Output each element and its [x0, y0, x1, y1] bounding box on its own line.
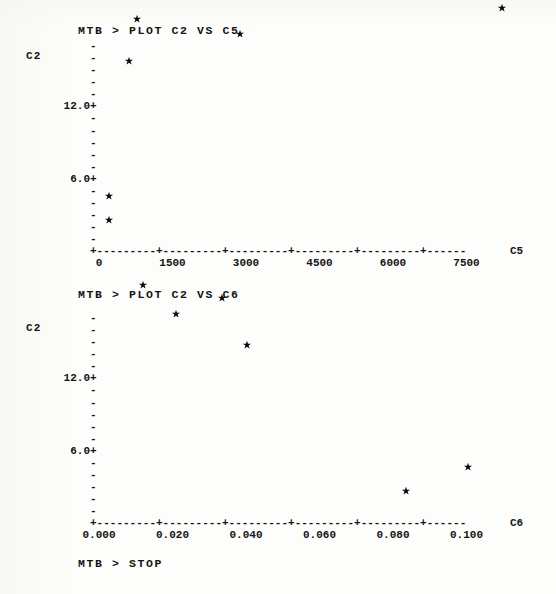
data-point-marker: [172, 310, 179, 317]
y-axis-tick-label: 6.0: [36, 173, 90, 185]
command-plot-c2-vs-c5: MTB > PLOT C2 VS C5: [78, 24, 240, 37]
x-axis-tick-label: 0.100: [450, 529, 483, 541]
y-axis-tick-minor: -: [90, 149, 97, 161]
y-axis-tick-minor: -: [90, 88, 97, 100]
minitab-output-page: MTB > PLOT C2 VS C5 -----+6.0-----+12.0-…: [0, 0, 556, 594]
x-axis-line: +---------+---------+---------+---------…: [90, 245, 466, 257]
y-axis-tick-minor: -: [90, 233, 97, 245]
x-axis-tick-label: 7500: [453, 257, 479, 269]
y-axis-tick-minor: -: [90, 40, 97, 52]
y-axis-title: C2: [26, 50, 42, 62]
x-axis-tick-label: 0.000: [82, 529, 115, 541]
y-axis-tick-minor: -: [90, 384, 97, 396]
y-axis-tick-minor: -: [90, 312, 97, 324]
x-axis-line: +---------+---------+---------+---------…: [90, 517, 466, 529]
data-point-marker: [243, 341, 250, 348]
y-axis-tick-minor: -: [90, 52, 97, 64]
data-point-marker: [497, 4, 504, 11]
y-axis-tick-minor: -: [90, 493, 97, 505]
y-axis-tick-label: 6.0: [36, 445, 90, 457]
y-axis-tick-major: +: [90, 100, 97, 112]
y-axis-title: C2: [26, 322, 42, 334]
data-point-marker: [132, 15, 139, 22]
y-axis-tick-minor: -: [90, 457, 97, 469]
x-axis-tick-label: 6000: [380, 257, 406, 269]
data-point-marker: [104, 192, 111, 199]
y-axis-tick-minor: -: [90, 481, 97, 493]
y-axis-tick-minor: -: [90, 324, 97, 336]
x-axis-tick-label: 0.040: [229, 529, 262, 541]
y-axis-tick-minor: -: [90, 197, 97, 209]
data-point-marker: [104, 216, 111, 223]
data-point-marker: [139, 281, 146, 288]
y-axis-tick-minor: -: [90, 433, 97, 445]
y-axis-tick-label: 12.0: [36, 372, 90, 384]
x-axis-tick-label: 0.080: [376, 529, 409, 541]
y-axis-tick-minor: -: [90, 421, 97, 433]
data-point-marker: [125, 57, 132, 64]
y-axis-tick-minor: -: [90, 125, 97, 137]
y-axis-tick-minor: -: [90, 469, 97, 481]
y-axis-tick-minor: -: [90, 505, 97, 517]
x-axis-tick-label: 1500: [159, 257, 185, 269]
y-axis-tick-major: +: [90, 173, 97, 185]
y-axis-tick-minor: -: [90, 360, 97, 372]
x-axis-tick-label: 0.020: [156, 529, 189, 541]
command-plot-c2-vs-c6: MTB > PLOT C2 VS C6: [78, 288, 240, 301]
y-axis-tick-minor: -: [90, 161, 97, 173]
y-axis-tick-minor: -: [90, 64, 97, 76]
command-stop: MTB > STOP: [78, 557, 163, 570]
y-axis-tick-label: 12.0: [36, 100, 90, 112]
y-axis-tick-major: +: [90, 372, 97, 384]
x-axis-tick-label: 0: [96, 257, 103, 269]
y-axis-tick-minor: -: [90, 209, 97, 221]
data-point-marker: [463, 463, 470, 470]
y-axis-tick-minor: -: [90, 348, 97, 360]
data-point-marker: [218, 294, 225, 301]
y-axis-tick-minor: -: [90, 409, 97, 421]
y-axis-tick-minor: -: [90, 112, 97, 124]
x-axis-title: C5: [510, 245, 523, 257]
y-axis-tick-minor: -: [90, 221, 97, 233]
y-axis-tick-minor: -: [90, 76, 97, 88]
y-axis-tick-minor: -: [90, 336, 97, 348]
x-axis-tick-label: 3000: [233, 257, 259, 269]
y-axis-tick-major: +: [90, 445, 97, 457]
data-point-marker: [401, 487, 408, 494]
x-axis-tick-label: 4500: [306, 257, 332, 269]
y-axis-tick-minor: -: [90, 185, 97, 197]
y-axis-tick-minor: -: [90, 137, 97, 149]
y-axis-tick-minor: -: [90, 397, 97, 409]
x-axis-title: C6: [510, 517, 523, 529]
x-axis-tick-label: 0.060: [303, 529, 336, 541]
data-point-marker: [236, 29, 243, 36]
